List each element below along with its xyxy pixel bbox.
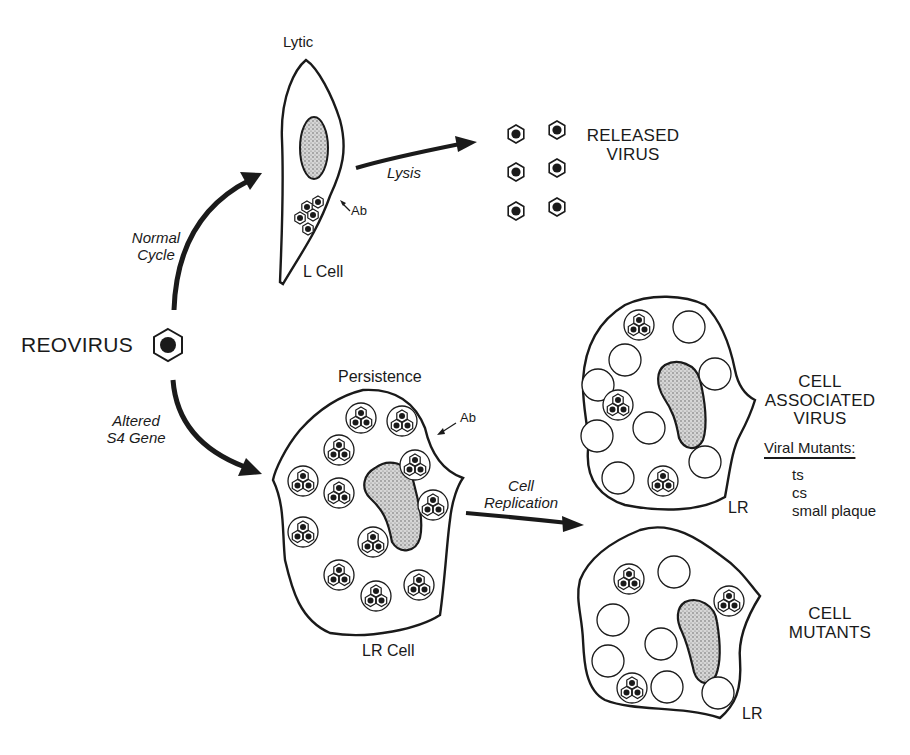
cell-associated-virus-label: CELL ASSOCIATED VIRUS [760,373,880,429]
lr-cell-label: LR Cell [362,642,414,660]
viral-mutants-list: ts cs small plaque [792,466,876,520]
cav-line-3: VIRUS [760,410,880,429]
lr-daughter-cell-2 [578,527,760,718]
mutant-ts: ts [792,466,876,484]
mutant-small-plaque: small plaque [792,502,876,520]
lytic-label: Lytic [283,34,313,51]
altered-s4-line-1: Altered [98,413,174,430]
cell-mutants-label: CELL MUTANTS [780,605,880,642]
lr-cell-persistent [273,390,463,635]
viral-mutants-heading: Viral Mutants: [764,440,855,457]
lytic-antibody-label: Ab [351,204,367,218]
l-cell-label: L Cell [303,263,343,281]
normal-cycle-line-2: Cycle [126,247,186,264]
altered-s4-arrow [173,380,262,476]
lr-daughter-2-label: LR [742,705,762,723]
altered-s4-label: Altered S4 Gene [98,413,174,446]
persistence-label: Persistence [338,368,422,386]
l-cell-nucleus [300,117,328,179]
reovirus-virion-icon [154,329,182,361]
cell-mutants-line-1: CELL [780,605,880,624]
cell-replication-line-2: Replication [476,495,566,512]
lysis-label: Lysis [387,165,421,182]
reovirus-label: REOVIRUS [21,333,133,356]
released-virus-group [508,121,565,220]
cell-replication-label: Cell Replication [476,478,566,511]
released-virus-label: RELEASED VIRUS [583,127,683,164]
cell-replication-line-1: Cell [476,478,566,495]
cav-line-2: ASSOCIATED [760,392,880,411]
altered-s4-line-2: S4 Gene [98,430,174,447]
cell-mutants-line-2: MUTANTS [780,624,880,643]
cav-line-1: CELL [760,373,880,392]
cell-replication-arrow [466,513,584,532]
lr-daughter-cell-1 [581,297,755,510]
normal-cycle-line-1: Normal [126,230,186,247]
released-virus-line-1: RELEASED [583,127,683,146]
lr-daughter-1-label: LR [728,499,748,517]
persistent-antibody-label: Ab [460,411,476,425]
released-virus-line-2: VIRUS [583,146,683,165]
normal-cycle-arrow [174,172,262,310]
normal-cycle-label: Normal Cycle [126,230,186,263]
mutant-cs: cs [792,484,876,502]
l-cell [280,60,350,284]
